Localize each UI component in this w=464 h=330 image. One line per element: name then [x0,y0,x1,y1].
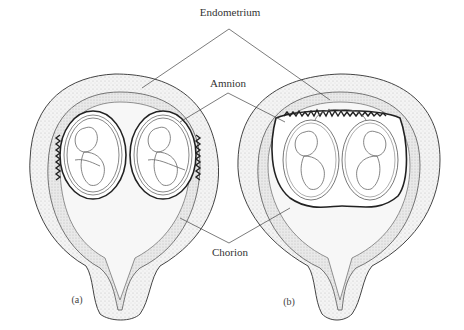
label-chorion: Chorion [212,246,248,258]
label-endometrium: Endometrium [200,6,261,18]
label-amnion: Amnion [210,77,246,89]
panel-label-b: (b) [283,296,295,307]
twin-placentation-diagram [0,0,464,330]
panel-b-uterus [238,74,440,320]
panel-label-a: (a) [71,294,82,305]
panel-a-uterus [30,74,219,320]
chorion-sac-a-right [130,111,196,199]
